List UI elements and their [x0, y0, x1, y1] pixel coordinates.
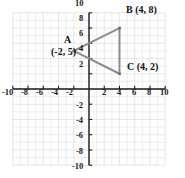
vertex-label-b: B (4, 8) [126, 5, 157, 15]
x-tick-label-4: 4 [117, 88, 121, 97]
y-tick-label-neg10: -10 [72, 162, 83, 171]
vertex-marker-c [118, 72, 121, 75]
y-tick-label-8: 8 [79, 14, 83, 23]
x-tick-label-neg6: -6 [36, 88, 43, 97]
x-tick-label-neg2: -2 [66, 88, 73, 97]
x-tick-label-2: 2 [102, 88, 106, 97]
y-tick-label-neg4: -4 [76, 116, 83, 125]
vertex-coords-a: (-2, 5) [51, 47, 76, 57]
x-tick-label-neg8: -8 [21, 88, 28, 97]
y-tick-label-10: 10 [75, 0, 84, 8]
x-tick-label-10: 10 [160, 88, 169, 97]
vertex-label-c: C (4, 2) [127, 62, 158, 72]
vertex-label-a: A [64, 35, 71, 45]
x-tick-label-8: 8 [147, 88, 151, 97]
vertex-marker-b [118, 27, 121, 30]
x-tick-label-neg10: -10 [2, 88, 13, 97]
x-tick-label-neg4: -4 [51, 88, 58, 97]
y-tick-label-neg2: -2 [76, 101, 83, 110]
y-tick-label-2: 2 [79, 60, 83, 69]
y-tick-label-4: 4 [79, 44, 83, 53]
y-tick-label-6: 6 [79, 29, 83, 38]
x-tick-label-6: 6 [132, 88, 136, 97]
y-tick-label-neg8: -8 [76, 147, 83, 156]
y-tick-label-neg6: -6 [76, 131, 83, 140]
coordinate-plane-graph: -10 -8 -6 -4 -2 2 4 6 8 10 10 8 6 4 2 -2… [0, 0, 185, 178]
